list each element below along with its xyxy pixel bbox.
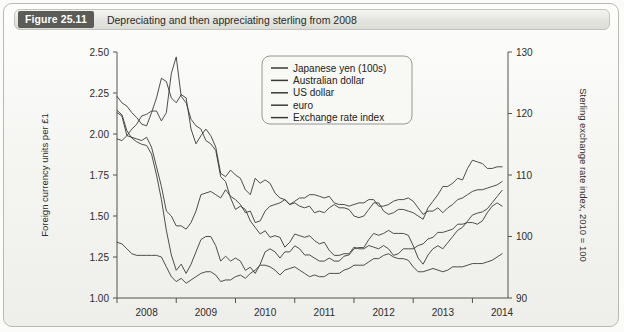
series-line-3 (117, 242, 502, 283)
y-tick-label-left: 1.25 (90, 252, 110, 263)
legend-label-0: Japanese yen (100s) (293, 63, 386, 74)
x-tick-label: 2008 (135, 307, 158, 318)
chart-plot-area: 1.001.251.501.752.002.252.50901001101201… (14, 34, 610, 322)
x-tick-label: 2014 (491, 307, 514, 318)
y-tick-label-right: 120 (516, 108, 533, 119)
legend-label-4: Exchange rate index (293, 112, 384, 123)
legend-label-2: US dollar (293, 87, 335, 98)
y-tick-label-right: 110 (516, 170, 532, 181)
figure-title-bar: Figure 25.11 Depreciating and then appre… (14, 9, 610, 30)
series-line-2 (117, 136, 502, 229)
figure-caption: Depreciating and then appreciating sterl… (107, 14, 357, 26)
figure-number-badge: Figure 25.11 (18, 11, 94, 28)
legend-label-1: Australian dollar (293, 75, 365, 86)
x-tick-label: 2010 (254, 307, 277, 318)
line-chart: 1.001.251.501.752.002.252.50901001101201… (14, 34, 610, 322)
figure-container: Figure 25.11 Depreciating and then appre… (0, 0, 624, 332)
y-axis-title-right: Sterling exchange rate index, 2010 = 100 (578, 88, 589, 262)
y-tick-label-left: 2.00 (90, 129, 110, 140)
y-tick-label-left: 2.50 (90, 47, 110, 58)
y-tick-label-left: 2.25 (90, 88, 110, 99)
x-tick-label: 2012 (372, 307, 395, 318)
y-tick-label-left: 1.50 (90, 211, 110, 222)
y-axis-title-left: Foreign currency units per £1 (39, 113, 50, 237)
y-tick-label-right: 130 (516, 47, 533, 58)
x-tick-label: 2013 (432, 307, 455, 318)
legend-label-3: euro (293, 100, 313, 111)
y-tick-label-left: 1.00 (90, 293, 110, 304)
x-tick-label: 2011 (314, 307, 336, 318)
y-tick-label-right: 100 (516, 231, 533, 242)
x-tick-label: 2009 (195, 307, 218, 318)
series-line-4 (117, 110, 502, 273)
y-tick-label-right: 90 (516, 293, 528, 304)
y-tick-label-left: 1.75 (90, 170, 110, 181)
